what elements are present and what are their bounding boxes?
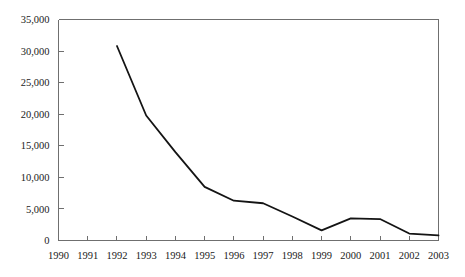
y-tick-label: 30,000 [21,46,50,57]
x-tick-label: 1991 [77,250,98,261]
x-tick-label: 1992 [106,250,127,261]
x-tick-label: 1995 [194,250,215,261]
x-tick-label: 1999 [311,250,332,261]
x-tick-label: 2001 [370,250,391,261]
y-tick-label: 5,000 [26,204,50,215]
x-tick-label: 1994 [165,250,187,261]
y-tick-label: 10,000 [21,172,50,183]
x-tick-label: 1993 [136,250,157,261]
y-tick-label: 25,000 [21,77,50,88]
x-tick-label: 1996 [223,250,244,261]
y-axis-ticks [59,20,64,241]
x-tick-label: 2002 [399,250,420,261]
x-tick-label: 1997 [253,250,274,261]
y-tick-label: 35,000 [21,14,50,25]
y-tick-label: 20,000 [21,109,50,120]
x-axis-ticks [59,236,439,241]
y-tick-label: 15,000 [21,140,50,151]
chart-figure: 05,00010,00015,00020,00025,00030,00035,0… [0,0,465,277]
line-chart-plot: 05,00010,00015,00020,00025,00030,00035,0… [0,0,465,277]
x-tick-label: 1998 [282,250,303,261]
data-series-line [117,46,439,235]
x-tick-label: 2000 [340,250,361,261]
x-tick-label: 1990 [48,250,69,261]
x-tick-label: 2003 [428,250,449,261]
plot-frame [59,20,439,241]
y-tick-label: 0 [44,235,49,246]
x-axis-tick-labels: 1990199119921993199419951996199719981999… [48,250,449,261]
y-axis-tick-labels: 05,00010,00015,00020,00025,00030,00035,0… [21,14,50,246]
